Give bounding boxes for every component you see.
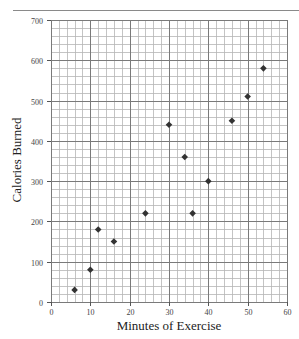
data-point-diamond [189, 210, 196, 217]
data-point-diamond [260, 65, 267, 72]
data-point-diamond [71, 287, 78, 294]
y-tick-labels: 0100200300400500600700 [31, 17, 43, 308]
y-tick-label: 0 [39, 299, 43, 308]
data-point-diamond [111, 238, 118, 245]
y-tick-label: 700 [31, 17, 43, 26]
x-tick-label: 0 [50, 308, 54, 317]
x-tick-label: 40 [205, 308, 213, 317]
data-point-diamond [205, 178, 212, 185]
major-grid [47, 20, 288, 306]
y-axis-label: Calories Burned [9, 105, 25, 215]
y-tick-label: 500 [31, 98, 43, 107]
data-point-diamond [87, 266, 94, 273]
y-tick-label: 200 [31, 218, 43, 227]
x-tick-label: 20 [127, 308, 135, 317]
data-point-diamond [166, 121, 173, 128]
y-tick-label: 400 [31, 138, 43, 147]
y-tick-label: 100 [31, 259, 43, 268]
data-point-diamond [244, 93, 251, 100]
x-tick-labels: 0102030405060 [50, 308, 292, 317]
x-tick-label: 60 [284, 308, 292, 317]
data-point-diamond [95, 226, 102, 233]
scatter-chart: 0100200300400500600700 0102030405060 [0, 0, 299, 339]
y-tick-label: 300 [31, 178, 43, 187]
data-point-diamond [181, 154, 188, 161]
y-tick-label: 600 [31, 57, 43, 66]
x-axis-label: Minutes of Exercise [51, 318, 287, 334]
x-tick-label: 10 [87, 308, 95, 317]
x-tick-label: 30 [166, 308, 174, 317]
x-tick-label: 50 [245, 308, 253, 317]
data-point-diamond [229, 117, 236, 124]
data-point-diamond [142, 210, 149, 217]
